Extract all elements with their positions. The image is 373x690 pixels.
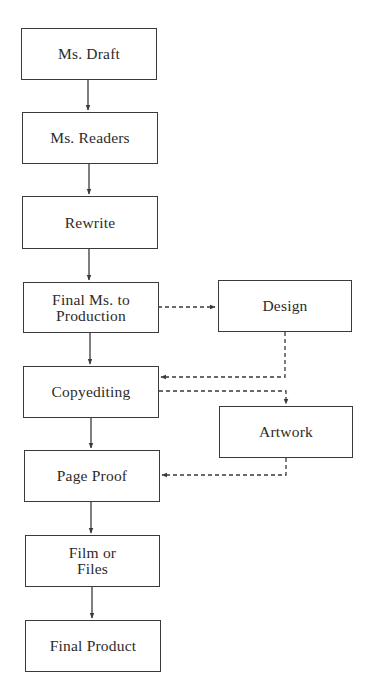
dashed-arrow-artwork-to-pageproof (162, 458, 286, 475)
node-final-ms-to-production: Final Ms. to Production (23, 282, 159, 333)
node-label: Ms. Readers (50, 130, 130, 146)
node-artwork: Artwork (219, 406, 353, 458)
node-label: Final Product (50, 638, 137, 654)
node-copyediting: Copyediting (23, 366, 159, 418)
node-ms-draft: Ms. Draft (21, 28, 157, 80)
node-label: Artwork (259, 424, 313, 440)
node-film-or-files: Film or Files (25, 535, 160, 587)
node-label: Page Proof (57, 468, 127, 484)
node-page-proof: Page Proof (24, 450, 160, 502)
node-ms-readers: Ms. Readers (22, 112, 158, 164)
node-label: Design (262, 298, 307, 314)
dashed-arrow-copyediting-to-artwork (159, 391, 286, 404)
node-label: Copyediting (52, 384, 131, 400)
node-final-product: Final Product (25, 620, 161, 672)
node-label: Ms. Draft (58, 46, 120, 62)
node-label-line2: Files (77, 561, 108, 577)
node-label: Rewrite (65, 215, 115, 231)
node-rewrite: Rewrite (22, 196, 158, 249)
dashed-arrow-design-to-copyediting (161, 332, 285, 377)
node-design: Design (218, 280, 352, 332)
node-label-line1: Film or (69, 545, 116, 561)
node-label-line1: Final Ms. to (52, 292, 130, 308)
node-label-line2: Production (56, 308, 126, 324)
